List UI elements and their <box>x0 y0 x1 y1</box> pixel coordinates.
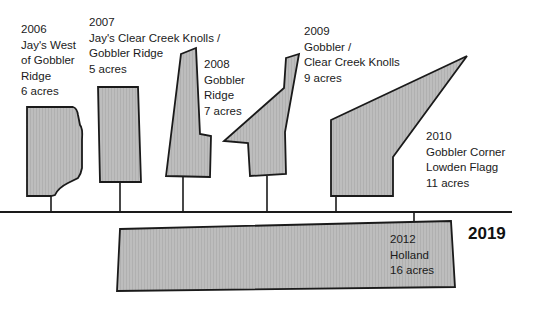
year: 2008 <box>204 57 245 73</box>
acres: 6 acres <box>21 84 76 100</box>
year: 2007 <box>89 15 220 31</box>
parcel-2007 <box>98 87 141 212</box>
parcel-2009-label: 2009 Gobbler / Clear Creek Knolls 9 acre… <box>304 24 400 86</box>
parcel-2006 <box>27 107 82 212</box>
name-line: Jay's Clear Creek Knolls / <box>89 31 220 47</box>
acres: 7 acres <box>204 104 245 120</box>
parcel-2010-label: 2010 Gobbler Corner Lowden Flagg 11 acre… <box>426 129 505 191</box>
acres: 16 acres <box>390 263 434 279</box>
parcel-2012-label: 2012 Holland 16 acres <box>390 232 434 279</box>
end-year-label: 2019 <box>468 224 506 244</box>
year: 2006 <box>21 22 76 38</box>
acres: 9 acres <box>304 71 400 87</box>
name-line: Gobbler Corner <box>426 145 505 161</box>
name-line: Clear Creek Knolls <box>304 55 400 71</box>
parcel-2006-label: 2006 Jay's West of Gobbler Ridge 6 acres <box>21 22 76 100</box>
parcel-2007-label: 2007 Jay's Clear Creek Knolls / Gobbler … <box>89 15 220 77</box>
name-line: Ridge <box>204 88 245 104</box>
name-line: Jay's West <box>21 38 76 54</box>
year: 2012 <box>390 232 434 248</box>
year: 2009 <box>304 24 400 40</box>
name-line: of Gobbler <box>21 53 76 69</box>
name-line: Gobbler / <box>304 40 400 56</box>
acres: 5 acres <box>89 62 220 78</box>
name-line: Gobbler <box>204 73 245 89</box>
name-line: Holland <box>390 248 434 264</box>
year: 2010 <box>426 129 505 145</box>
name-line: Lowden Flagg <box>426 160 505 176</box>
parcel-2008-label: 2008 Gobbler Ridge 7 acres <box>204 57 245 119</box>
name-line: Gobbler Ridge <box>89 46 220 62</box>
name-line: Ridge <box>21 69 76 85</box>
acres: 11 acres <box>426 176 505 192</box>
